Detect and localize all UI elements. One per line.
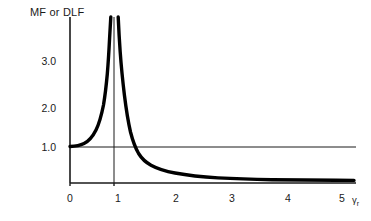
curve-post-resonance [118, 17, 354, 180]
chart-canvas [0, 0, 371, 221]
reference-lines-group [70, 17, 356, 183]
resonance-chart: MF or DLF 3.0 2.0 1.0 0 1 2 3 4 5 γr [0, 0, 371, 221]
curve-pre-resonance [70, 17, 111, 147]
axes-group [70, 17, 356, 183]
curve-group [70, 17, 354, 180]
